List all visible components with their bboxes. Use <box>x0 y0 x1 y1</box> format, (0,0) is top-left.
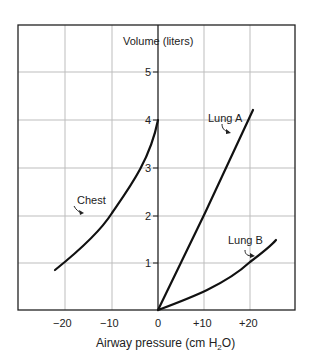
y-tick-4: 4 <box>145 114 151 126</box>
x-tick-pos20: +20 <box>239 317 258 329</box>
y-tick-5: 5 <box>145 66 151 78</box>
series-lung-a <box>158 110 253 310</box>
x-tick-neg10: −10 <box>100 317 119 329</box>
series-chest <box>55 120 158 270</box>
annotation-lung-b: Lung B <box>228 234 263 246</box>
x-axis-label: Airway pressure (cm H2O) <box>96 337 235 354</box>
y-axis-label: Volume (liters) <box>123 35 193 47</box>
y-axis-ticks <box>153 72 158 263</box>
annotation-arrows <box>74 124 253 256</box>
annotation-lung-a: Lung A <box>208 112 242 124</box>
x-tick-0: 0 <box>155 317 161 329</box>
x-tick-pos10: +10 <box>193 317 212 329</box>
y-tick-3: 3 <box>145 162 151 174</box>
y-tick-2: 2 <box>145 210 151 222</box>
annotation-chest: Chest <box>77 194 106 206</box>
chart-canvas <box>0 0 310 355</box>
x-tick-neg20: −20 <box>53 317 72 329</box>
y-tick-1: 1 <box>145 257 151 269</box>
